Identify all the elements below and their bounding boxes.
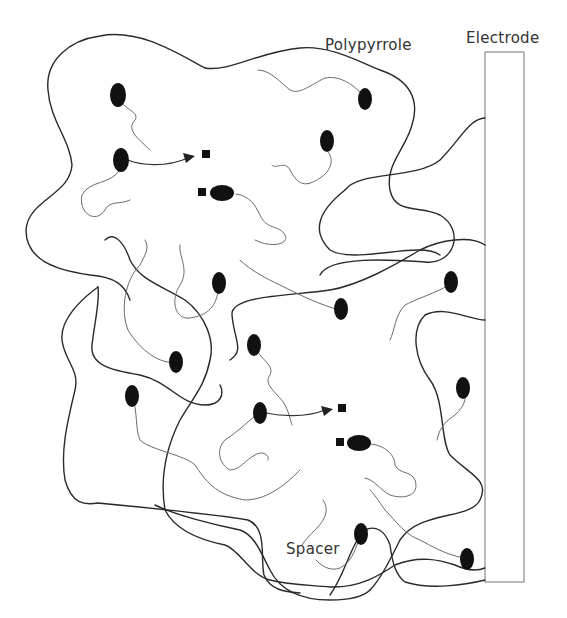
polypyrrole-label: Polypyrrole	[325, 36, 412, 54]
electrode-label: Electrode	[466, 29, 539, 47]
polypyrrole-chains	[26, 35, 485, 600]
arrowhead-icon	[183, 153, 195, 163]
redox-site	[354, 523, 368, 545]
arrowhead-icon	[321, 406, 333, 416]
redox-site	[212, 272, 226, 294]
arrow-electron-transfer-lower	[266, 410, 325, 416]
polypyrrole-chain-left-loop	[62, 287, 300, 593]
spacer	[302, 500, 326, 545]
counter-ion-square	[202, 150, 210, 158]
redox-site	[210, 185, 234, 201]
spacers	[81, 70, 465, 569]
redox-site	[113, 148, 129, 172]
electrode-rect	[485, 52, 524, 582]
spacer	[258, 70, 365, 98]
arrow-electron-transfer-upper	[128, 158, 188, 165]
counter-ion-square	[198, 188, 206, 196]
polypyrrole-chain-left-inner	[92, 287, 222, 405]
polypyrrole-chain-center-bump	[105, 237, 485, 587]
spacer	[370, 490, 465, 558]
spacer-label: Spacer	[286, 540, 340, 558]
polypyrrole-chain-top-right	[205, 48, 454, 275]
counter-ion-square	[336, 438, 344, 446]
spacer	[124, 240, 176, 362]
redox-site	[334, 298, 348, 320]
redox-site	[358, 88, 372, 110]
redox-site	[347, 435, 371, 451]
spacer	[240, 260, 340, 310]
polypyrrole-chain-middle	[319, 118, 485, 255]
redox-site	[169, 351, 183, 373]
counter-ion-square	[338, 404, 346, 412]
spacer	[272, 152, 331, 184]
redox-site	[247, 334, 261, 356]
redox-site	[444, 271, 458, 293]
redox-site	[460, 548, 474, 570]
redox-site	[456, 377, 470, 399]
spacer	[236, 194, 286, 245]
redox-site	[125, 385, 139, 407]
redox-site	[253, 402, 267, 424]
redox-site	[110, 83, 126, 107]
diagram-canvas	[0, 0, 567, 618]
spacer	[365, 444, 416, 497]
spacer	[132, 396, 300, 500]
spacer	[120, 100, 150, 150]
redox-sites	[110, 83, 474, 570]
spacer	[175, 245, 218, 318]
redox-site	[320, 130, 334, 152]
spacer	[81, 170, 130, 217]
polypyrrole-chain-lower-mid	[230, 240, 485, 360]
